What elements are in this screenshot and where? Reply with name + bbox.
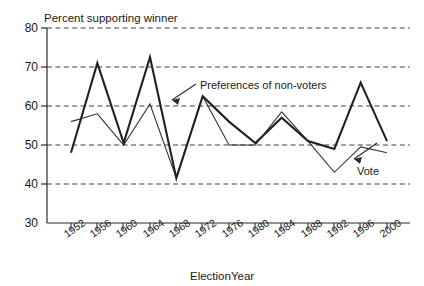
line-chart-canvas: Percent supporting winner 80 70 60 50 (0, 0, 424, 286)
y-tick-label: 30 (25, 216, 39, 230)
chart-figure: Percent supporting winner 80 70 60 50 (0, 0, 424, 286)
annotation-label-vote: Vote (357, 165, 379, 177)
y-tick-label: 70 (25, 60, 39, 74)
chart-background (0, 0, 424, 286)
x-axis-title: ElectionYear (190, 270, 254, 282)
y-axis-title: Percent supporting winner (44, 12, 178, 24)
annotation-label-nonvoters: Preferences of non-voters (200, 79, 327, 91)
y-tick-label: 60 (25, 99, 39, 113)
y-tick-label: 40 (25, 177, 39, 191)
y-tick-label: 50 (25, 138, 39, 152)
y-tick-label: 80 (25, 21, 39, 35)
